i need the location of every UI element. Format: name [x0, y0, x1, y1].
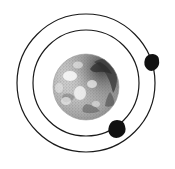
moon-deimos: [144, 54, 159, 71]
orbit-diagram-canvas: [0, 0, 175, 169]
planet-mars: [53, 54, 119, 120]
mars-orbit-diagram: Mars with two orbiting moons: [0, 0, 175, 169]
moon-phobos: [108, 120, 125, 138]
